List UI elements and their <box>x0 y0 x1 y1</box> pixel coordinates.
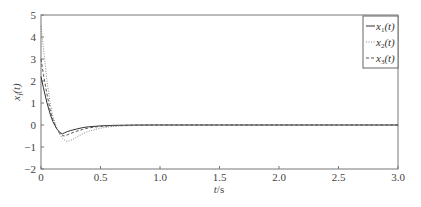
plot-area: −2−1012345 00.51.01.52.02.53.0 <box>24 9 405 183</box>
series-lines <box>41 26 398 142</box>
y-tick-label: 2 <box>31 75 37 87</box>
series-line-2 <box>41 26 398 142</box>
legend-label-1: x1(t) <box>375 20 395 34</box>
x-tick-label: 2.0 <box>272 171 286 183</box>
series-line-3 <box>41 59 398 136</box>
legend: x1(t)x2(t)x3(t) <box>363 16 398 68</box>
series-line-1 <box>41 77 398 134</box>
y-tick-label: 5 <box>31 9 37 21</box>
legend-label-2: x2(t) <box>375 36 395 50</box>
y-tick-label: −1 <box>24 141 36 153</box>
y-tick-label: 3 <box>31 53 37 65</box>
x-tick-label: 3.0 <box>391 171 405 183</box>
line-chart: −2−1012345 00.51.01.52.02.53.0 t/s xi(t)… <box>0 0 421 207</box>
y-tick-label: 1 <box>31 97 37 109</box>
x-tick-label: 1.5 <box>213 171 227 183</box>
x-tick-label: 1.0 <box>153 171 167 183</box>
x-tick-label: 0 <box>38 171 44 183</box>
y-tick-label: 4 <box>31 31 37 43</box>
y-axis-label: xi(t) <box>10 83 25 102</box>
y-tick-label: 0 <box>31 119 37 131</box>
x-tick-label: 0.5 <box>94 171 108 183</box>
legend-label-3: x3(t) <box>375 52 395 66</box>
x-axis-label: t/s <box>214 183 224 195</box>
x-tick-label: 2.5 <box>332 171 346 183</box>
axes-frame <box>41 15 398 169</box>
y-tick-label: −2 <box>24 163 36 175</box>
